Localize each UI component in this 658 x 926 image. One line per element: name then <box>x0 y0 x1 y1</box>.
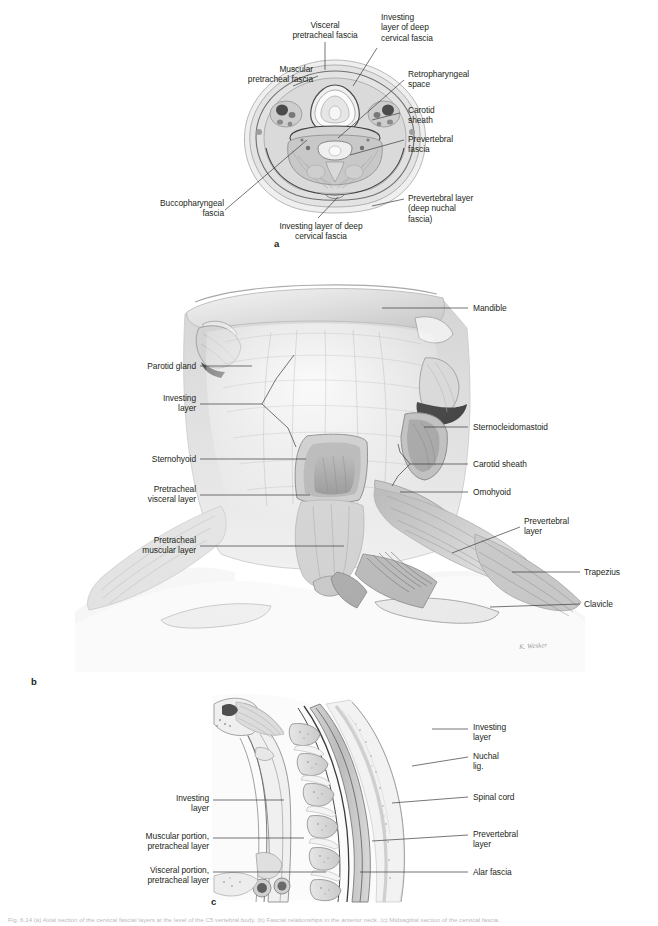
panel-letter-a: a <box>274 238 279 249</box>
panel-letter-c: c <box>211 896 216 907</box>
label-visceral-portion-pretracheal-layer: Visceral portion, pretracheal layer <box>94 865 209 886</box>
panel-letter-b: b <box>31 676 37 687</box>
label-pretracheal-muscular-layer: Pretracheal muscular layer <box>30 535 196 556</box>
label-investing-layer-c-left: Investing layer <box>135 793 209 814</box>
label-buccopharyngeal-fascia: Buccopharyngeal fascia <box>120 198 224 219</box>
midsagittal-section-artwork <box>200 690 435 905</box>
label-nuchal-lig: Nuchal lig. <box>473 751 545 772</box>
label-sternocleidomastoid: Sternocleidomastoid <box>473 422 593 432</box>
label-carotid-sheath: Carotid sheath <box>408 105 478 126</box>
label-mandible: Mandible <box>473 303 563 313</box>
label-investing-layer-deep-cervical-fascia-top: Investing layer of deep cervical fascia <box>381 12 465 43</box>
label-prevertebral-fascia: Prevertebral fascia <box>408 134 484 155</box>
label-omohyoid: Omohyoid <box>473 487 557 497</box>
label-prevertebral-layer-b: Prevertebral layer <box>524 516 600 537</box>
label-clavicle: Clavicle <box>584 599 654 609</box>
label-investing-layer-c-right: Investing layer <box>473 722 549 743</box>
label-muscular-pretracheal-fascia: Muscular pretracheal fascia <box>168 64 313 85</box>
label-sternohyoid: Sternohyoid <box>116 454 196 464</box>
label-retropharyngeal-space: Retropharyngeal space <box>408 69 494 90</box>
label-alar-fascia: Alar fascia <box>473 867 553 877</box>
label-prevertebral-layer-c: Prevertebral layer <box>473 829 553 850</box>
figure-caption: Fig. 6.14 (a) Axial section of the cervi… <box>8 916 652 926</box>
label-parotid-gland: Parotid gland <box>112 361 196 371</box>
label-pretracheal-visceral-layer: Pretracheal visceral layer <box>106 484 196 505</box>
label-carotid-sheath-b: Carotid sheath <box>473 459 569 469</box>
label-investing-layer: Investing layer <box>122 393 196 414</box>
label-visceral-pretracheal-fascia: Visceral pretracheal fascia <box>272 20 378 41</box>
panel-b-anterior-neck-dissection: K. Wesker <box>75 272 585 672</box>
panel-c-midsagittal-section <box>200 690 435 905</box>
label-prevertebral-layer-deep-nuchal-fascia: Prevertebral layer (deep nuchal fascia) <box>408 193 498 224</box>
label-muscular-portion-pretracheal-layer: Muscular portion, pretracheal layer <box>94 831 209 852</box>
label-spinal-cord: Spinal cord <box>473 792 559 802</box>
figure-page: K. Wesker <box>0 0 658 926</box>
anterior-neck-dissection-artwork <box>75 272 585 672</box>
label-trapezius: Trapezius <box>584 567 654 577</box>
